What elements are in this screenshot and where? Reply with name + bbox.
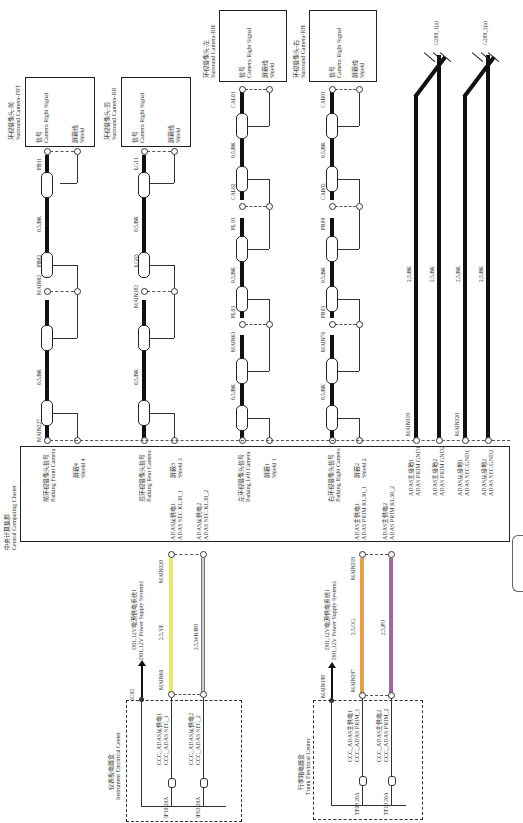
- front-shield-line-2: [77, 265, 78, 288]
- gnd4-ccc-pin: [485, 437, 492, 444]
- front-shield-line: [77, 155, 78, 183]
- left-inline-dash-2: [245, 324, 266, 325]
- right-camera-shield-pin: [356, 86, 363, 93]
- rear-camera-shield-pin: [171, 148, 178, 155]
- ccc-pin-right-camera-cn: 右环视摄像头信号: [328, 454, 335, 502]
- tec-prim2-ccc-pin: [388, 551, 395, 558]
- left-shield-tie-4: [248, 299, 269, 300]
- right-wire-gauge-2: 0.5,BK: [320, 267, 327, 283]
- camera-right-signal-cn: 信号: [329, 66, 336, 78]
- right-shield-tie-6: [338, 418, 359, 419]
- ground-wire-3-bend: [462, 56, 495, 98]
- tec-bus-line: [331, 700, 332, 805]
- gnd1-ccc-pin: [413, 437, 420, 444]
- rear-shield-tie-2: [150, 265, 174, 266]
- right-shield-line-2: [359, 179, 360, 203]
- ccc-pin-adas-sec2-cn: ADAS从供电2: [196, 503, 203, 540]
- right-inline-shield-pin-2: [356, 321, 363, 328]
- left-camera-shield-pin: [266, 86, 273, 93]
- left-conn-fl03: FL03: [230, 306, 237, 318]
- rear-conn-lg03: LG03: [133, 254, 140, 267]
- ccc-pin-front-camera-cn: 前环视摄像头信号: [43, 454, 50, 502]
- tec-title-cn: 行李箱电器盒: [298, 754, 305, 790]
- tec-wire-pu-label: 2.5,PU: [380, 620, 387, 635]
- iec-fuse2-cn: CCC_ADAS从供电2: [188, 713, 195, 765]
- front-shield-sleeve-1: [41, 172, 53, 198]
- iec-fuse1-rating: IF10 20A: [163, 797, 170, 818]
- left-shield-sleeve-2: [236, 166, 248, 192]
- ground-wire-3: [463, 95, 467, 440]
- front-conn-main02-fb02: MAIN02: [36, 275, 43, 295]
- right-shield-line-3: [359, 210, 360, 249]
- gnd3-ccc-pin: [462, 437, 469, 444]
- instrument-electrical-center-box: [126, 700, 242, 822]
- ccc-pin-shield1-en: Shield 1: [271, 458, 278, 478]
- iec-fuse2-en: CCC_ADAS SEC_2: [195, 715, 202, 765]
- right-shield-sleeve-3: [326, 236, 338, 262]
- ccc-pin-left-camera-cn: 左环视摄像头信号: [238, 454, 245, 502]
- ccc-pin-adas-prim1-en: ADAS PRIM KL30_1: [361, 486, 368, 540]
- rear-shield-line-3: [174, 295, 175, 338]
- rear-conn-main182: MAIN182: [133, 285, 140, 308]
- camera-left-signal-en: Camera Right Signal: [246, 28, 253, 78]
- rear-wire-gauge-2: 0.5,BK: [133, 369, 140, 385]
- camera-front-signal-en: Camera Right Signal: [43, 93, 50, 143]
- ccc-pin-front-camera-en: Parking Front Camera: [50, 449, 57, 502]
- front-wire-gauge-1: 0.5,BK: [36, 216, 43, 232]
- right-shield-tie-5: [338, 371, 359, 372]
- gnd2-ccc-pin: [436, 437, 443, 444]
- ccc-pin-rear-camera-cn: 后环视摄像头信号: [139, 454, 146, 502]
- iec-bus-line: [141, 700, 142, 806]
- left-conn-cal02: CAL02: [230, 184, 237, 201]
- ccc-pin-prim-gnd1-cn: ADAS主接地1: [408, 459, 415, 496]
- left-shield-line-1: [269, 93, 270, 126]
- left-shield-line-5: [269, 328, 270, 371]
- camera-rear-signal-en: Camera Right Signal: [139, 93, 146, 143]
- front-shield-line-3: [77, 295, 78, 338]
- left-shield-tie-6: [248, 418, 269, 419]
- rear-conn-lg11: LG11: [133, 157, 140, 170]
- camera-front-title-en: Surround Camera-FRT: [15, 85, 22, 140]
- rear-shield-sleeve-3: [138, 325, 150, 351]
- right-conn-car02: CAR02: [320, 183, 327, 200]
- arrow-up-icon: [328, 662, 336, 668]
- iec-fuse1-en: CCC_ADAS SEC_1: [163, 715, 170, 765]
- front-shield-tie-4: [53, 413, 77, 414]
- page-edge-mark: [512, 535, 523, 592]
- right-shield-line-5: [359, 328, 360, 371]
- ground-label-g209-1a: G209_1(a): [433, 21, 440, 45]
- iec-sec2-pin: [200, 691, 207, 698]
- front-camera-conn-dash: [50, 151, 74, 152]
- ground-wire-1-gauge: 2.5,BK: [406, 266, 413, 282]
- iec-supply-cn: D01,12V电源供电系统1: [131, 589, 138, 650]
- tec-conn-main297: MAIN297: [350, 669, 357, 692]
- fuse-icon-tf10: [388, 776, 396, 786]
- right-shield-sleeve-5: [326, 358, 338, 384]
- iec-sec2-ccc-pin: [200, 551, 207, 558]
- right-conn-fr03: FR03: [320, 306, 327, 318]
- right-shield-tie-1: [338, 126, 359, 127]
- front-shield-tie-3: [53, 338, 77, 339]
- tec-feed-conn: MAIN198: [320, 675, 327, 698]
- camera-left-shield-cn: 屏蔽线: [262, 60, 269, 78]
- rear-shield-line-2: [174, 265, 175, 288]
- camera-right-shield-cn: 屏蔽线: [352, 60, 359, 78]
- ground-label-g209-2a: G209_2(a): [482, 21, 489, 45]
- camera-right-signal-en: Camera Right Signal: [336, 28, 343, 78]
- right-shield-tie-3: [338, 249, 359, 250]
- tec-bottom-dash: [365, 695, 388, 696]
- right-shield-line-4: [359, 299, 360, 321]
- tec-title-en: Trunk Electrical Center: [305, 739, 312, 795]
- ccc-pin-prim-gnd2-cn: ADAS主接地2: [432, 459, 439, 496]
- wire-2-5-pu: [389, 558, 393, 693]
- front-shield-sleeve-3: [41, 325, 53, 351]
- iec-fuse2-rating: IF63 20A: [195, 797, 202, 818]
- ccc-pin-shield4-en: Shield 4: [80, 458, 87, 478]
- rear-wire-gauge-1: 0.5,BK: [133, 216, 140, 232]
- right-shield-line-1: [359, 93, 360, 126]
- fuse-icon-tf08: [359, 776, 367, 786]
- left-shield-line-4: [269, 299, 270, 321]
- iec-feed-arrow-line: [141, 663, 143, 698]
- iec-sec1-ccc-pin: [168, 551, 175, 558]
- ground-wire-1: [414, 95, 418, 440]
